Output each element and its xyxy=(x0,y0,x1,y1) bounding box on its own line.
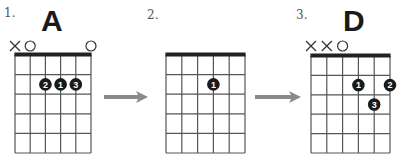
finger-dot: 1 xyxy=(352,79,365,92)
finger-dot: 1 xyxy=(54,78,67,91)
open-string-icon xyxy=(338,41,348,51)
chord-grid-1: 213 xyxy=(10,41,96,153)
svg-text:2: 2 xyxy=(387,80,392,90)
nut-bar xyxy=(14,53,91,57)
chord-grid-2: 1 xyxy=(165,53,245,154)
arrow-right-icon xyxy=(104,91,148,103)
chord-diagram-canvas: 2131123 xyxy=(0,0,401,161)
svg-text:1: 1 xyxy=(356,80,361,90)
svg-text:3: 3 xyxy=(73,80,78,90)
finger-dot: 2 xyxy=(39,78,52,91)
open-string-icon xyxy=(25,41,35,51)
svg-text:1: 1 xyxy=(211,80,216,90)
open-string-icon xyxy=(86,41,96,51)
svg-text:1: 1 xyxy=(58,80,63,90)
finger-dot: 2 xyxy=(384,79,397,92)
finger-dot: 3 xyxy=(368,98,381,111)
chord-grid-3: 123 xyxy=(306,41,396,153)
svg-text:3: 3 xyxy=(372,100,377,110)
svg-text:2: 2 xyxy=(43,80,48,90)
finger-dot: 1 xyxy=(207,78,220,91)
arrow-right-icon xyxy=(255,91,301,103)
nut-bar xyxy=(165,53,245,57)
nut-bar xyxy=(310,54,390,58)
finger-dot: 3 xyxy=(70,78,83,91)
